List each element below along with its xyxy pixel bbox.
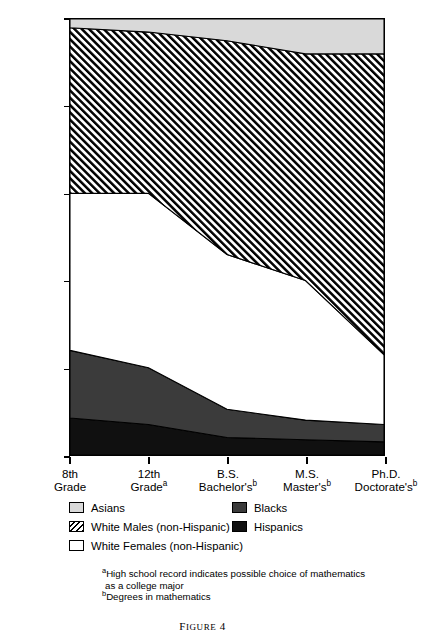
legend-swatch-whitefemales-icon: [69, 540, 84, 551]
footnotes: aHigh school record indicates possible c…: [102, 568, 402, 603]
footnote-a-continuation: as a college major: [102, 580, 402, 592]
legend-label-hispanics: Hispanics: [254, 521, 303, 533]
legend-label-asians: Asians: [91, 502, 125, 514]
legend-item-asians: Asians: [69, 498, 243, 517]
legend: AsiansWhite Males (non-Hispanic)White Fe…: [69, 498, 405, 556]
footnote-a: aHigh school record indicates possible c…: [102, 568, 402, 580]
legend-item-whitefemales: White Females (non-Hispanic): [69, 536, 243, 555]
legend-item-hispanics: Hispanics: [232, 517, 303, 536]
y-tick-mark-60: [64, 194, 70, 195]
x-tick-label-line1: 12th: [138, 467, 161, 480]
figure-caption-prefix: F: [179, 620, 186, 632]
legend-column-left: AsiansWhite Males (non-Hispanic)White Fe…: [69, 498, 243, 555]
legend-swatch-whitemales-icon: [69, 521, 84, 532]
figure-caption-number: 4: [220, 620, 226, 632]
x-tick-label-line2: Doctorate'sb: [326, 480, 422, 493]
y-tick-mark-100: [64, 18, 70, 19]
legend-label-blacks: Blacks: [254, 502, 287, 514]
legend-label-whitefemales: White Females (non-Hispanic): [91, 540, 243, 552]
y-tick-mark-80: [64, 106, 70, 107]
x-tick-mark-1: [148, 457, 149, 464]
legend-item-whitemales: White Males (non-Hispanic): [69, 517, 243, 536]
legend-label-whitemales: White Males (non-Hispanic): [91, 521, 230, 533]
legend-item-blacks: Blacks: [232, 498, 303, 517]
x-tick-label-footnote-marker: b: [413, 480, 418, 489]
footnote-b: bDegrees in mathematics: [102, 591, 402, 603]
legend-column-right: BlacksHispanics: [232, 498, 303, 536]
footnote-b-text: Degrees in mathematics: [106, 591, 210, 602]
x-tick-label-4: Ph.D.Doctorate'sb: [326, 467, 422, 494]
legend-swatch-hispanics-icon: [232, 521, 247, 532]
x-tick-label-line1: M.S.: [295, 467, 319, 480]
x-tick-mark-2: [227, 457, 228, 464]
plot-area: 8thGrade12thGradeaB.S.Bachelor'sbM.S.Mas…: [69, 18, 385, 456]
x-tick-mark-3: [306, 457, 307, 464]
figure-caption: FIGURE 4: [0, 620, 405, 632]
footnote-a-text: High school record indicates possible ch…: [106, 568, 365, 579]
x-tick-label-line1: 8th: [62, 467, 78, 480]
figure-caption-word: IGURE: [186, 622, 217, 632]
x-tick-label-line1: B.S.: [217, 467, 239, 480]
y-tick-mark-20: [64, 369, 70, 370]
x-tick-mark-0: [69, 457, 70, 464]
legend-swatch-blacks-icon: [232, 502, 247, 513]
stacked-area-chart: [70, 19, 384, 455]
x-tick-label-footnote-marker: a: [163, 480, 168, 489]
y-tick-mark-40: [64, 281, 70, 282]
x-tick-label-line1: Ph.D.: [372, 467, 401, 480]
x-tick-mark-4: [385, 457, 386, 464]
legend-swatch-asians-icon: [69, 502, 84, 513]
